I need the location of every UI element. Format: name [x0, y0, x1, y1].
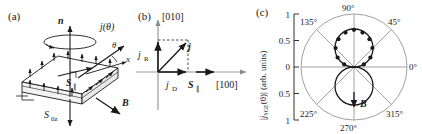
svg-text:1: 1 [286, 10, 291, 20]
j-total-label: j [186, 41, 191, 52]
magnetic-field-arrow [96, 98, 120, 114]
panel-b-label: (b) [138, 10, 151, 23]
normal-vector-label: n [58, 15, 64, 26]
svg-text:S: S [44, 109, 49, 120]
svg-text:∥: ∥ [196, 85, 200, 93]
j-total-arrow [158, 43, 186, 72]
panel-b: (b) [010] [100] j R j D j S ∥ [136, 0, 254, 134]
j-dresselhaus-label: j D [164, 79, 177, 93]
radial-tick-labels: 1 0.5 0 0.5 1 [279, 10, 291, 126]
angle-label-45: 45° [388, 17, 401, 27]
theta-angle-label: θ [112, 40, 116, 50]
angle-label-315: 315° [386, 109, 404, 119]
angle-label-135: 135° [300, 17, 318, 27]
radial-ticks [294, 14, 299, 120]
svg-text:0.5: 0.5 [279, 89, 291, 99]
b-y-axis-label: [010] [162, 11, 184, 22]
panel-c: (c) |jSGE(θ)| (arb. units) 1 0.5 0 0. [254, 0, 422, 134]
svg-text:S: S [66, 78, 71, 88]
figure-three-panel: (a) n j(θ) θ x S ∥ S 0z B [0, 0, 422, 134]
rotation-direction-arrow [46, 44, 54, 48]
angle-label-0: 0° [409, 62, 418, 72]
panel-a-label: (a) [8, 10, 21, 23]
magnetic-field-label-c: B [359, 98, 367, 109]
panel-b-graphic: (b) [010] [100] j R j D j S ∥ [136, 0, 254, 134]
svg-text:0z: 0z [51, 115, 58, 123]
magnetic-field-label: B [121, 97, 129, 108]
svg-text:1: 1 [286, 116, 291, 126]
panel-a: (a) n j(θ) θ x S ∥ S 0z B [0, 0, 136, 134]
panel-c-polar-plot: (c) |jSGE(θ)| (arb. units) 1 0.5 0 0. [254, 0, 422, 134]
radial-axis-title: |jSGE(θ)| (arb. units) [258, 50, 269, 120]
spin-z-label: S 0z [44, 109, 58, 123]
svg-text:0.5: 0.5 [279, 36, 291, 46]
angle-label-270: 270° [340, 123, 358, 133]
svg-text:D: D [172, 85, 177, 93]
svg-text:S: S [188, 79, 194, 90]
svg-text:R: R [144, 55, 149, 63]
svg-text:j: j [164, 79, 169, 90]
x-axis-label: x [125, 54, 130, 64]
spin-parallel-label-b: S ∥ [188, 79, 200, 93]
b-x-axis-label: [100] [216, 79, 238, 90]
svg-text:|jSGE(θ)| (arb. units): |jSGE(θ)| (arb. units) [258, 50, 269, 120]
svg-text:j: j [136, 49, 141, 60]
panel-a-graphic: (a) n j(θ) θ x S ∥ S 0z B [0, 0, 136, 134]
current-vector-label: j(θ) [98, 21, 115, 33]
svg-text:∥: ∥ [73, 83, 77, 91]
angle-label-90: 90° [342, 3, 355, 13]
j-rashba-label: j R [136, 49, 149, 63]
theta-angle-arc [112, 56, 117, 62]
angle-label-225: 225° [300, 109, 318, 119]
panel-c-label: (c) [256, 6, 269, 19]
svg-text:0: 0 [286, 62, 291, 72]
